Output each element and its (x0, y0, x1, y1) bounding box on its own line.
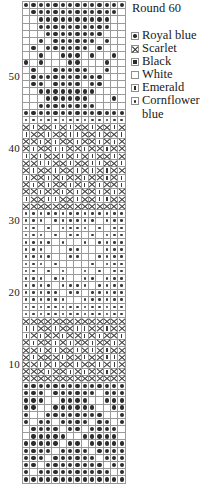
chart-row (23, 196, 126, 203)
chart-cell (118, 103, 125, 110)
chart-cell (67, 124, 74, 131)
chart-cell (111, 210, 118, 217)
chart-cell (82, 225, 89, 232)
chart-cell (74, 117, 81, 124)
chart-cell (23, 376, 30, 383)
chart-cell (118, 383, 125, 390)
chart-cell (38, 24, 45, 31)
chart-cell (104, 9, 111, 16)
chart-cell (82, 31, 89, 38)
chart-cell (23, 196, 30, 203)
chart-cell (89, 455, 96, 462)
chart-cell (74, 160, 81, 167)
chart-cell (30, 476, 37, 483)
chart-cell (38, 103, 45, 110)
chart-cell (82, 333, 89, 340)
chart-cell (38, 225, 45, 232)
chart-cell (52, 254, 59, 261)
chart-cell (30, 397, 37, 404)
chart-cell (30, 117, 37, 124)
chart-row (23, 232, 126, 239)
chart-cell (74, 24, 81, 31)
chart-cell (111, 60, 118, 67)
chart-cell (82, 175, 89, 182)
chart-cell (38, 412, 45, 419)
chart-cell (104, 246, 111, 253)
chart-cell (74, 74, 81, 81)
chart-cell (23, 110, 30, 117)
chart-cell (74, 103, 81, 110)
chart-grid (22, 1, 126, 484)
chart-cell (82, 60, 89, 67)
chart-cell (23, 38, 30, 45)
chart-cell (67, 88, 74, 95)
chart-cell (74, 304, 81, 311)
chart-cell (30, 405, 37, 412)
chart-cell (23, 74, 30, 81)
chart-cell (52, 433, 59, 440)
chart-cell (89, 232, 96, 239)
chart-cell (111, 9, 118, 16)
chart-cell (89, 246, 96, 253)
chart-cell (111, 88, 118, 95)
chart-cell (67, 24, 74, 31)
chart-cell (89, 433, 96, 440)
chart-cell (118, 60, 125, 67)
chart-cell (89, 397, 96, 404)
chart-cell (52, 189, 59, 196)
chart-cell (38, 268, 45, 275)
chart-cell (67, 153, 74, 160)
chart-cell (82, 117, 89, 124)
chart-cell (52, 16, 59, 23)
chart-cell (60, 232, 67, 239)
chart-cell (45, 81, 52, 88)
chart-cell (104, 225, 111, 232)
chart-cell (111, 196, 118, 203)
chart-row (23, 354, 126, 361)
chart-cell (118, 282, 125, 289)
chart-cell (104, 74, 111, 81)
chart-cell (60, 412, 67, 419)
chart-cell (111, 38, 118, 45)
chart-cell (30, 146, 37, 153)
chart-cell (67, 239, 74, 246)
chart-cell (52, 282, 59, 289)
chart-cell (23, 210, 30, 217)
chart-cell (118, 74, 125, 81)
chart-cell (60, 311, 67, 318)
chart-cell (38, 448, 45, 455)
chart-cell (96, 383, 103, 390)
chart-cell (52, 275, 59, 282)
chart-cell (104, 31, 111, 38)
chart-cell (23, 103, 30, 110)
chart-cell (45, 325, 52, 332)
chart-cell (30, 433, 37, 440)
chart-cell (118, 175, 125, 182)
chart-cell (23, 405, 30, 412)
chart-row (23, 103, 126, 110)
chart-cell (118, 239, 125, 246)
chart-cell (60, 390, 67, 397)
legend-title: Round 60 (132, 1, 181, 15)
chart-cell (67, 110, 74, 117)
chart-cell (38, 275, 45, 282)
chart-cell (89, 110, 96, 117)
chart-cell (104, 24, 111, 31)
chart-cell (74, 340, 81, 347)
chart-cell (67, 131, 74, 138)
chart-cell (60, 182, 67, 189)
chart-row (23, 74, 126, 81)
chart-cell (45, 2, 52, 9)
chart-cell (111, 476, 118, 483)
chart-cell (74, 45, 81, 52)
chart-cell (67, 476, 74, 483)
chart-cell (96, 9, 103, 16)
chart-cell (60, 131, 67, 138)
chart-cell (82, 376, 89, 383)
chart-cell (38, 60, 45, 67)
chart-cell (60, 103, 67, 110)
chart-cell (89, 369, 96, 376)
chart-cell (38, 325, 45, 332)
chart-cell (52, 383, 59, 390)
chart-cell (45, 354, 52, 361)
